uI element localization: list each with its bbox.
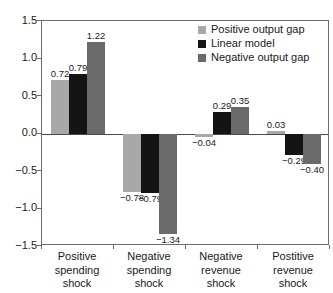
legend-item: Positive output gap [198, 23, 309, 36]
bar-value-label: 0.03 [256, 120, 296, 130]
legend-label: Positive output gap [211, 24, 305, 35]
x-tick-mark [185, 245, 186, 249]
x-group-label-line: Postitive [257, 250, 329, 264]
bar [213, 112, 231, 134]
legend-label: Linear model [211, 38, 275, 49]
x-group-label-line: Negative [113, 250, 185, 264]
bar [159, 134, 177, 235]
x-group-label-line: spending [41, 264, 113, 278]
legend-item: Negative output gap [198, 51, 309, 64]
bar-chart: 1.51.00.50.0−0.5−1.0−1.5 0.720.791.22−0.… [0, 0, 333, 293]
x-group-label-line: shock [41, 277, 113, 291]
bar-value-label: −0.40 [292, 165, 332, 175]
bar [51, 80, 69, 134]
legend-swatch-icon [198, 54, 206, 62]
x-group-label: Positivespendingshock [41, 250, 113, 291]
chart-legend: Positive output gapLinear modelNegative … [198, 23, 309, 65]
x-tick-mark [113, 245, 114, 249]
x-group-label-line: shock [113, 277, 185, 291]
x-group-label-line: Negative [185, 250, 257, 264]
y-tick-label: −0.5 [3, 165, 37, 176]
bar-value-label: 1.22 [76, 31, 116, 41]
legend-item: Linear model [198, 37, 309, 50]
bar-value-label: −1.34 [148, 235, 188, 245]
x-group-label-line: revenue [257, 264, 329, 278]
bar [231, 107, 249, 133]
legend-label: Negative output gap [211, 52, 309, 63]
y-tick-label: −1.5 [3, 240, 37, 251]
x-group-label: Postitiverevenueshock [257, 250, 329, 291]
x-group-label: Negativerevenueshock [185, 250, 257, 291]
y-tick-label: −1.0 [3, 202, 37, 213]
bar [267, 131, 285, 133]
y-tick-label: 0.0 [3, 127, 37, 138]
x-tick-mark [257, 245, 258, 249]
x-group-label-line: shock [185, 277, 257, 291]
bar [123, 134, 141, 193]
x-tick-mark [41, 245, 42, 249]
bar [141, 134, 159, 193]
legend-swatch-icon [198, 26, 206, 34]
x-group-label: Negativespendingshock [113, 250, 185, 291]
x-group-label-line: revenue [185, 264, 257, 278]
x-group-label-line: Positive [41, 250, 113, 264]
x-group-label-line: shock [257, 277, 329, 291]
y-tick-label: 1.5 [3, 15, 37, 26]
bar-value-label: −0.04 [184, 138, 224, 148]
bar [303, 134, 321, 164]
bar [69, 74, 87, 133]
bar [285, 134, 303, 156]
y-tick-label: 0.5 [3, 90, 37, 101]
x-group-label-line: spending [113, 264, 185, 278]
legend-swatch-icon [198, 40, 206, 48]
y-tick-label: 1.0 [3, 52, 37, 63]
bar [87, 42, 105, 134]
bar-value-label: 0.35 [220, 96, 260, 106]
x-tick-mark [329, 245, 330, 249]
